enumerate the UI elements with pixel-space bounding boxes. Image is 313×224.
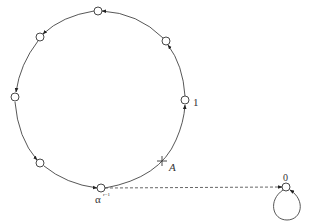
zero-self-loop [274,190,301,220]
node-n4[interactable] [36,33,44,41]
node-zero[interactable] [282,183,290,191]
label-alpha: α [95,193,101,205]
dashed-edge-to-zero [105,187,282,188]
cycle-nodes [11,7,290,192]
node-n5[interactable] [11,93,19,101]
edge-n2-to-n3 [102,11,163,38]
edge-1-to-n2 [168,45,185,96]
edge-bottom-to-1 [105,105,185,188]
node-n3[interactable] [94,7,102,15]
edge-n6-to-n7 [44,166,97,188]
edge-n5-to-n6 [15,102,37,160]
diagram-canvas: 1 A α r−1 0 [0,0,313,224]
label-alpha-sup: r−1 [103,192,110,197]
label-1: 1 [193,96,199,108]
node-n6[interactable] [36,159,44,167]
label-A: A [168,161,176,173]
node-1[interactable] [181,96,189,104]
label-zero: 0 [283,172,288,183]
edge-n3-to-n4 [43,11,94,34]
node-alpha[interactable] [97,184,105,192]
edge-n4-to-n5 [16,41,38,92]
node-n2[interactable] [162,37,170,45]
